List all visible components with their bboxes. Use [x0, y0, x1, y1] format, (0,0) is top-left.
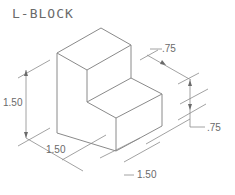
l-block-outline: [57, 28, 162, 151]
dimension-depth-top-right: .75: [162, 44, 176, 54]
isometric-l-block-drawing: [0, 0, 235, 195]
dimension-width-front-bottom: 1.50: [137, 170, 156, 180]
dimension-arrows: [24, 60, 192, 138]
dimension-height-left: 1.50: [3, 98, 22, 108]
dimension-height-right: .75: [207, 123, 221, 133]
dimension-lines: [18, 49, 208, 175]
dimension-width-front-left: 1.50: [46, 145, 65, 155]
